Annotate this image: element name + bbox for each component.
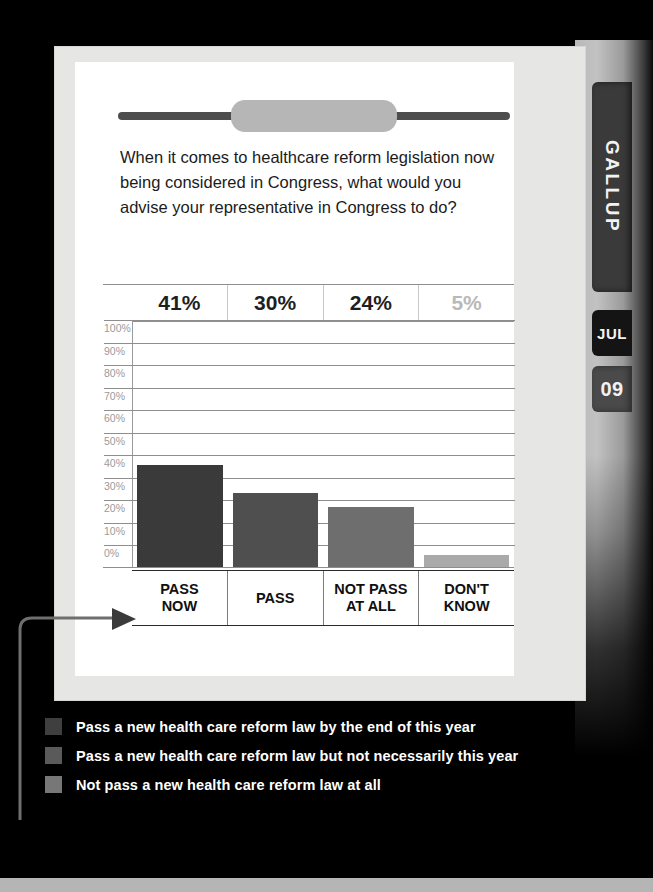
bar-cell [419,320,515,568]
value-label: 5% [419,285,514,321]
bar[interactable] [328,507,414,567]
category-row-corner [103,570,132,624]
bar-cell [132,320,228,568]
value-label: 41% [132,285,228,321]
y-axis-tick-label: 60% [104,411,131,425]
category-label: PASS [228,571,324,625]
value-labels-row: 41%30%24%5% [132,284,514,322]
y-axis-tick-label: 90% [104,344,131,358]
value-row-corner [103,284,132,321]
legend-swatch [45,718,62,735]
legend-swatch [45,776,62,793]
tab-month-jul[interactable]: JUL [592,310,632,356]
y-axis-tick-label: 10% [104,524,131,538]
tab-month-label: JUL [597,325,627,342]
tab-gallup[interactable]: GALLUP [592,82,632,292]
slider-graphic [118,100,510,132]
value-label: 24% [324,285,420,321]
bar[interactable] [424,555,510,567]
legend-label: Pass a new health care reform law by the… [76,719,476,735]
plot-baseline [103,567,514,568]
side-panel-top-fade [575,0,653,40]
category-label: PASSNOW [132,571,228,625]
plot: 100%90%80%70%60%50%40%30%20%10%0% [103,320,514,568]
bar-cell [228,320,324,568]
legend-swatch [45,747,62,764]
poll-question: When it comes to healthcare reform legis… [120,145,510,220]
category-labels-row: PASSNOWPASSNOT PASSAT ALLDON'TKNOW [132,570,514,626]
y-axis-tick-label: 70% [104,389,131,403]
plot-bars [132,320,514,568]
side-panel-bottom-fade [575,455,653,885]
y-axis-tick-label: 100% [104,321,131,335]
y-axis-tick-label: 0% [104,546,131,560]
y-axis-tick-label: 30% [104,479,131,493]
legend-item: Not pass a new health care reform law at… [45,770,625,799]
legend-label: Not pass a new health care reform law at… [76,777,381,793]
category-label: NOT PASSAT ALL [324,571,420,625]
tab-year-label: 09 [600,378,623,401]
category-label: DON'TKNOW [419,571,514,625]
legend-item: Pass a new health care reform law but no… [45,741,625,770]
y-axis-tick-label: 20% [104,501,131,515]
bar-cell [323,320,419,568]
legend-label: Pass a new health care reform law but no… [76,748,518,764]
bar[interactable] [137,465,223,567]
tab-gallup-label: GALLUP [603,140,622,233]
tab-year-09[interactable]: 09 [592,366,632,412]
value-label: 30% [228,285,324,321]
legend-item: Pass a new health care reform law by the… [45,712,625,741]
bar-chart: 41%30%24%5% 100%90%80%70%60%50%40%30%20%… [103,284,514,624]
y-axis-tick-label: 80% [104,366,131,380]
chart-legend: Pass a new health care reform law by the… [45,712,625,799]
y-axis-tick-label: 40% [104,456,131,470]
bottom-strip-highlight [540,862,653,892]
bar[interactable] [233,493,319,567]
y-axis-tick-label: 50% [104,434,131,448]
slider-knob[interactable] [231,100,397,132]
